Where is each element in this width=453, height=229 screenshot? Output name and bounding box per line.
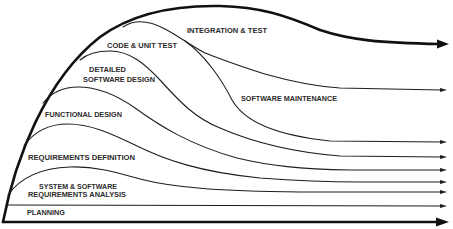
- software-lifecycle-diagram: INTEGRATION & TEST CODE & UNIT TEST DETA…: [0, 0, 453, 229]
- label-detailed-design-line1: DETAILED: [89, 66, 126, 73]
- label-software-maintenance: SOFTWARE MAINTENANCE: [241, 95, 337, 102]
- label-integration-test: INTEGRATION & TEST: [187, 27, 268, 34]
- label-functional-design: FUNCTIONAL DESIGN: [45, 111, 122, 118]
- label-detailed-design-line2: SOFTWARE DESIGN: [83, 76, 155, 83]
- label-planning: PLANNING: [27, 209, 66, 216]
- label-requirements-definition: REQUIREMENTS DEFINITION: [28, 154, 135, 162]
- label-code-unit-test: CODE & UNIT TEST: [107, 42, 178, 49]
- label-requirements-analysis-line2: REQUIREMENTS ANALYSIS: [28, 191, 126, 199]
- label-requirements-analysis-line1: SYSTEM & SOFTWARE: [39, 183, 117, 190]
